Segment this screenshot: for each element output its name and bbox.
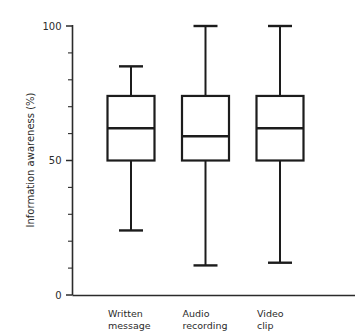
y-axis-title: Information awareness (%) (25, 92, 36, 227)
y-axis-major-ticks (66, 26, 73, 295)
x-category-label: Videoclip (257, 308, 284, 331)
figure-root: 050100 WrittenmessageAudiorecordingVideo… (0, 0, 361, 335)
y-axis-title-text: Information awareness (%) (25, 92, 36, 227)
y-axis-tick-labels: 050100 (42, 21, 61, 301)
box-iqr (182, 96, 229, 161)
box-plot-item (257, 26, 304, 263)
box-plot-chart: 050100 WrittenmessageAudiorecordingVideo… (0, 0, 361, 335)
box-plot-item (182, 26, 229, 265)
y-tick-label: 0 (55, 290, 61, 301)
box-plot-item (108, 66, 155, 230)
x-category-label: Writtenmessage (108, 308, 151, 331)
x-category-label: Audiorecording (183, 308, 228, 331)
y-tick-label: 50 (49, 155, 62, 166)
y-tick-label: 100 (42, 21, 61, 32)
box-plot-series (108, 26, 304, 265)
x-axis-category-labels: WrittenmessageAudiorecordingVideoclip (108, 308, 284, 331)
